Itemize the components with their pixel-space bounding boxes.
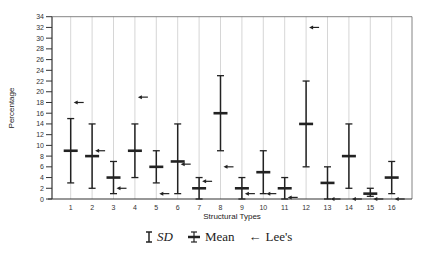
x-tick-label: 15 [366, 204, 374, 211]
legend-lee-label: Lee's [266, 229, 293, 245]
legend-mean-label: Mean [205, 229, 235, 245]
gridlines [71, 17, 392, 199]
x-tick-label: 11 [281, 204, 288, 211]
x-tick-label: 12 [302, 204, 310, 211]
left-arrow-icon: ← [249, 229, 262, 245]
error-bar [256, 151, 270, 194]
legend-item-sd: SD [145, 229, 173, 245]
lee-arrow-icon [309, 25, 319, 29]
y-tick-label: 6 [40, 163, 44, 170]
x-tick-label: 7 [197, 204, 201, 211]
error-bar [128, 124, 142, 178]
sd-bar-icon [145, 231, 153, 243]
legend-item-lee: ← Lee's [249, 229, 293, 245]
y-tick-label: 12 [36, 131, 44, 138]
y-tick-label: 24 [36, 67, 44, 74]
error-bar [235, 178, 249, 199]
y-tick-label: 18 [36, 99, 44, 106]
x-tick-label: 6 [176, 204, 180, 211]
lee-arrow-icon [373, 197, 383, 201]
x-tick-label: 5 [154, 204, 158, 211]
error-bar [299, 81, 313, 167]
y-tick-label: 0 [40, 196, 44, 203]
lee-arrow-icon [245, 192, 255, 196]
error-bar [321, 167, 335, 199]
x-tick-label: 10 [259, 204, 267, 211]
lee-arrow-icon [117, 186, 127, 190]
y-tick-label: 20 [36, 88, 44, 95]
error-bar [149, 151, 163, 183]
lee-arrow-icon [352, 197, 362, 201]
error-bars [64, 76, 399, 199]
lee-arrows [74, 25, 405, 201]
error-bar [385, 161, 399, 193]
mean-bar-icon [187, 231, 201, 243]
y-tick-label: 34 [36, 13, 44, 20]
y-tick-label: 4 [40, 174, 44, 181]
x-tick-label: 4 [133, 204, 137, 211]
lee-arrow-icon [202, 179, 212, 183]
lee-arrow-icon [266, 192, 276, 196]
error-bar-chart: 0246810121416182022242628303234 12345678… [0, 0, 428, 225]
y-tick-label: 28 [36, 45, 44, 52]
lee-arrow-icon [95, 149, 105, 153]
lee-arrow-icon [395, 197, 405, 201]
legend-sd-label: SD [157, 229, 173, 245]
x-tick-label: 2 [90, 204, 94, 211]
y-axis-title: Percentage [7, 87, 16, 128]
chart-legend: SD Mean ← Lee's [145, 229, 292, 245]
x-tick-label: 9 [240, 204, 244, 211]
x-tick-label: 1 [69, 204, 73, 211]
error-bar [342, 124, 356, 188]
x-tick-label: 13 [324, 204, 332, 211]
x-tick-label: 16 [388, 204, 396, 211]
error-bar [278, 178, 292, 199]
error-bar [64, 119, 78, 183]
y-tick-label: 16 [36, 110, 44, 117]
x-axis: 12345678910111213141516 [48, 199, 412, 211]
y-tick-label: 26 [36, 56, 44, 63]
lee-arrow-icon [159, 192, 169, 196]
lee-arrow-icon [331, 197, 341, 201]
x-tick-label: 14 [345, 204, 353, 211]
x-tick-label: 8 [219, 204, 223, 211]
lee-arrow-icon [224, 165, 234, 169]
legend-item-mean: Mean [187, 229, 235, 245]
y-tick-label: 22 [36, 78, 44, 85]
lee-arrow-icon [138, 95, 148, 99]
y-tick-label: 32 [36, 24, 44, 31]
y-tick-label: 8 [40, 153, 44, 160]
x-tick-label: 3 [112, 204, 116, 211]
error-bar [171, 124, 185, 194]
y-tick-label: 14 [36, 120, 44, 127]
y-tick-label: 2 [40, 185, 44, 192]
x-axis-title: Structural Types [203, 212, 261, 221]
y-tick-label: 10 [36, 142, 44, 149]
error-bar [214, 76, 228, 151]
error-bar [363, 188, 377, 196]
error-bar [85, 124, 99, 188]
y-tick-label: 30 [36, 35, 44, 42]
lee-arrow-icon [74, 100, 84, 104]
